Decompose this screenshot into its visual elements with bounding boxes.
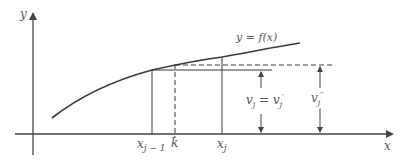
x-axis-label: x xyxy=(384,139,391,153)
y-axis-label: y xyxy=(19,7,27,21)
k-label: k xyxy=(171,136,178,150)
v-j-label: vj = vj′ xyxy=(246,92,284,109)
x-j-label: xj xyxy=(217,137,227,153)
v-j-double-prime-label: vj″ xyxy=(311,90,323,107)
diagram-canvas: y x y = f(x) xj − 1 k xj vj = vj′ vj″ xyxy=(0,0,404,162)
curve-label: y = f(x) xyxy=(235,31,277,44)
x-j-minus-1-label: xj − 1 xyxy=(137,137,166,153)
